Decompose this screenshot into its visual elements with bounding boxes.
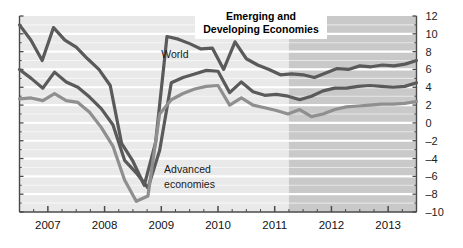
x-tick-label-2007: 2007 [35, 219, 61, 231]
y-tick-label-12: 12 [426, 10, 438, 22]
x-tick-label-2008: 2008 [92, 219, 118, 231]
economic-growth-line-chart: 121086420–2–4–6–8–10 2007200820092010201… [0, 0, 463, 248]
advanced-annotation-line2: economies [164, 178, 215, 190]
y-tick-label--10: –10 [426, 206, 444, 218]
y-tick-label-8: 8 [426, 46, 432, 58]
advanced-annotation-line1: Advanced [164, 163, 211, 175]
y-tick-label-0: 0 [426, 117, 432, 129]
x-tick-label-2012: 2012 [319, 219, 345, 231]
y-tick-label-6: 6 [426, 63, 432, 75]
x-tick-label-2010: 2010 [205, 219, 231, 231]
x-tick-label-2011: 2011 [262, 219, 287, 231]
y-tick-label-2: 2 [426, 99, 432, 111]
chart-title-line2: Developing Economies [203, 23, 319, 35]
y-tick-label--4: –4 [426, 153, 438, 165]
world-annotation: World [161, 48, 188, 60]
x-tick-label-2009: 2009 [148, 219, 174, 231]
x-tick-label-2013: 2013 [375, 219, 401, 231]
y-tick-label-4: 4 [426, 81, 432, 93]
chart-title: Emerging and Developing Economies [195, 8, 327, 39]
y-tick-label--2: –2 [426, 135, 438, 147]
y-tick-label--6: –6 [426, 170, 438, 182]
chart-title-line1: Emerging and [226, 10, 296, 22]
y-tick-label-10: 10 [426, 28, 438, 40]
chart-container: 121086420–2–4–6–8–10 2007200820092010201… [0, 0, 463, 248]
y-tick-label--8: –8 [426, 188, 438, 200]
